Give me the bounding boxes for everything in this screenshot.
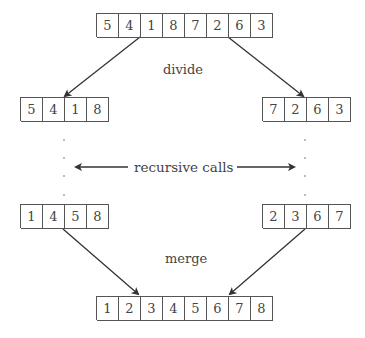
merge-arrow-left [63, 229, 138, 294]
output-array: 1 2 3 4 5 6 7 8 [96, 296, 273, 320]
array-cell: 2 [285, 97, 307, 122]
array-cell: 8 [163, 13, 185, 38]
array-cell: 4 [43, 97, 65, 122]
ellipsis-dots-left [63, 139, 65, 196]
array-cell: 3 [251, 13, 273, 38]
array-cell: 7 [263, 97, 285, 122]
array-cell: 5 [65, 204, 87, 229]
merge-label: merge [165, 251, 207, 266]
array-cell: 4 [43, 204, 65, 229]
divide-arrow-left [65, 37, 140, 96]
left-sorted-array: 1 4 5 8 [20, 204, 109, 228]
right-half-array: 7 2 6 3 [262, 97, 351, 121]
array-cell: 3 [329, 97, 351, 122]
array-cell: 2 [119, 296, 141, 321]
array-cell: 8 [87, 97, 109, 122]
array-cell: 3 [285, 204, 307, 229]
array-cell: 5 [97, 13, 119, 38]
array-cell: 6 [307, 204, 329, 229]
ellipsis-dots-right [304, 139, 306, 196]
divide-label: divide [163, 62, 203, 77]
recursive-calls-label: recursive calls [134, 159, 233, 175]
array-cell: 1 [141, 13, 163, 38]
array-cell: 5 [21, 97, 43, 122]
array-cell: 8 [87, 204, 109, 229]
array-cell: 8 [251, 296, 273, 321]
array-cell: 2 [207, 13, 229, 38]
divide-arrow-right [228, 37, 303, 96]
array-cell: 6 [207, 296, 229, 321]
array-cell: 6 [229, 13, 251, 38]
array-cell: 4 [163, 296, 185, 321]
array-cell: 3 [141, 296, 163, 321]
array-cell: 1 [21, 204, 43, 229]
merge-arrow-right [230, 229, 305, 294]
left-half-array: 5 4 1 8 [20, 97, 109, 121]
array-cell: 1 [65, 97, 87, 122]
array-cell: 6 [307, 97, 329, 122]
array-cell: 7 [185, 13, 207, 38]
array-cell: 5 [185, 296, 207, 321]
array-cell: 7 [229, 296, 251, 321]
input-array: 5 4 1 8 7 2 6 3 [96, 13, 273, 37]
array-cell: 7 [329, 204, 351, 229]
array-cell: 2 [263, 204, 285, 229]
right-sorted-array: 2 3 6 7 [262, 204, 351, 228]
array-cell: 4 [119, 13, 141, 38]
array-cell: 1 [97, 296, 119, 321]
